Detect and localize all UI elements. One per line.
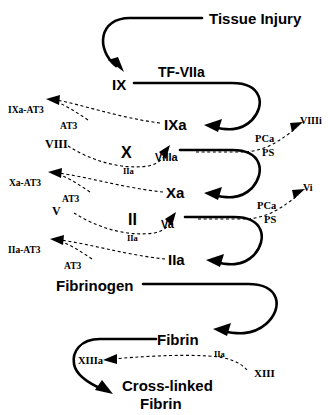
- arrow-fibrin-to-crosslinked-fibrin: [74, 339, 156, 394]
- arrow-ixa-to-ixa-at3: [46, 95, 160, 123]
- arrow-fibrinogen-to-fibrin: [143, 284, 277, 336]
- arrow-x-to-xa: [180, 150, 260, 200]
- arrow-xa-to-xa-at3: [48, 168, 163, 192]
- arrow-xiii-to-xiiia: [103, 354, 247, 370]
- arrow-v-to-va: [74, 212, 176, 234]
- arrow-tissue-injury-to-tf-viia: [103, 18, 202, 72]
- arrow-ii-to-iia: [185, 217, 262, 267]
- coagulation-cascade-diagram: Tissue Injury TF-VIIa IX IXa IXa-AT3 AT3…: [0, 0, 334, 415]
- cascade-svg: [0, 0, 334, 415]
- arrow-iia-to-iia-at3: [50, 235, 165, 259]
- arrow-pca-ps-to-vi: [248, 189, 305, 219]
- arrow-pca-ps-to-viiii: [246, 122, 303, 152]
- arrow-ix-to-ixa: [134, 83, 260, 132]
- arrow-viii-to-viiia: [68, 145, 170, 167]
